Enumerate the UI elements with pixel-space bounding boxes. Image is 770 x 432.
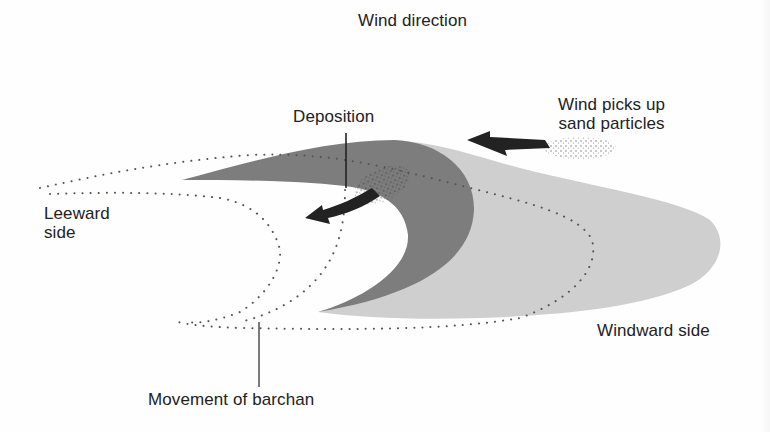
- movement-of-barchan-label: Movement of barchan: [148, 390, 314, 409]
- wind-picks-up-line2: sand particles: [558, 114, 665, 133]
- windward-side-label: Windward side: [597, 321, 710, 340]
- wind-pickup-arrow-icon: [467, 131, 550, 156]
- leeward-line2: side: [44, 223, 110, 242]
- wind-direction-label: Wind direction: [358, 11, 467, 30]
- page-edge: [760, 0, 770, 432]
- pickup-sand-spray: [544, 137, 616, 159]
- leeward-line1: Leeward: [44, 204, 110, 223]
- barchan-illustration: [0, 0, 770, 432]
- barchan-diagram: Wind direction Wind picks up sand partic…: [0, 0, 770, 432]
- wind-picks-up-label: Wind picks up sand particles: [558, 95, 665, 133]
- deposition-arrow-icon: [305, 188, 380, 224]
- leeward-side-label: Leeward side: [44, 204, 110, 242]
- wind-picks-up-line1: Wind picks up: [558, 95, 665, 114]
- deposition-label: Deposition: [293, 107, 374, 126]
